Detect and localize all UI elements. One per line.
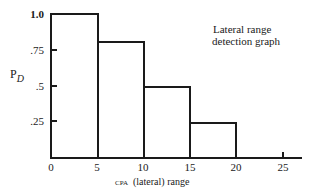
bar-15-20	[190, 123, 236, 158]
bar-0-5	[51, 14, 98, 158]
chart-title-line-1: Lateral range	[213, 23, 271, 35]
x-tick-label: 10	[138, 161, 150, 173]
bar-5-10	[98, 42, 144, 158]
x-axis-label: CPA(lateral) range	[115, 176, 190, 188]
lateral-range-chart: 1.0 .75 .5 .25 PD 0 5 10 15 20 25 CPA(la…	[0, 0, 309, 190]
y-axis-label-sub: D	[16, 73, 25, 84]
x-tick-label: 5	[94, 161, 100, 173]
x-tick-label: 25	[278, 161, 290, 173]
y-axis-label: PD	[10, 67, 25, 84]
bar-10-15	[144, 87, 190, 158]
x-axis-label-small: CPA	[115, 179, 128, 187]
y-tick-label: .5	[36, 80, 45, 92]
x-tick-label: 0	[48, 161, 54, 173]
y-tick-label: 1.0	[30, 8, 44, 20]
x-tick-label: 15	[185, 161, 197, 173]
y-tick-label: .75	[30, 44, 44, 56]
y-tick-label: .25	[30, 115, 44, 127]
chart-title-line-2: detection graph	[212, 35, 281, 47]
x-tick-label: 20	[231, 161, 243, 173]
x-axis-label-rest: (lateral) range	[133, 176, 190, 188]
